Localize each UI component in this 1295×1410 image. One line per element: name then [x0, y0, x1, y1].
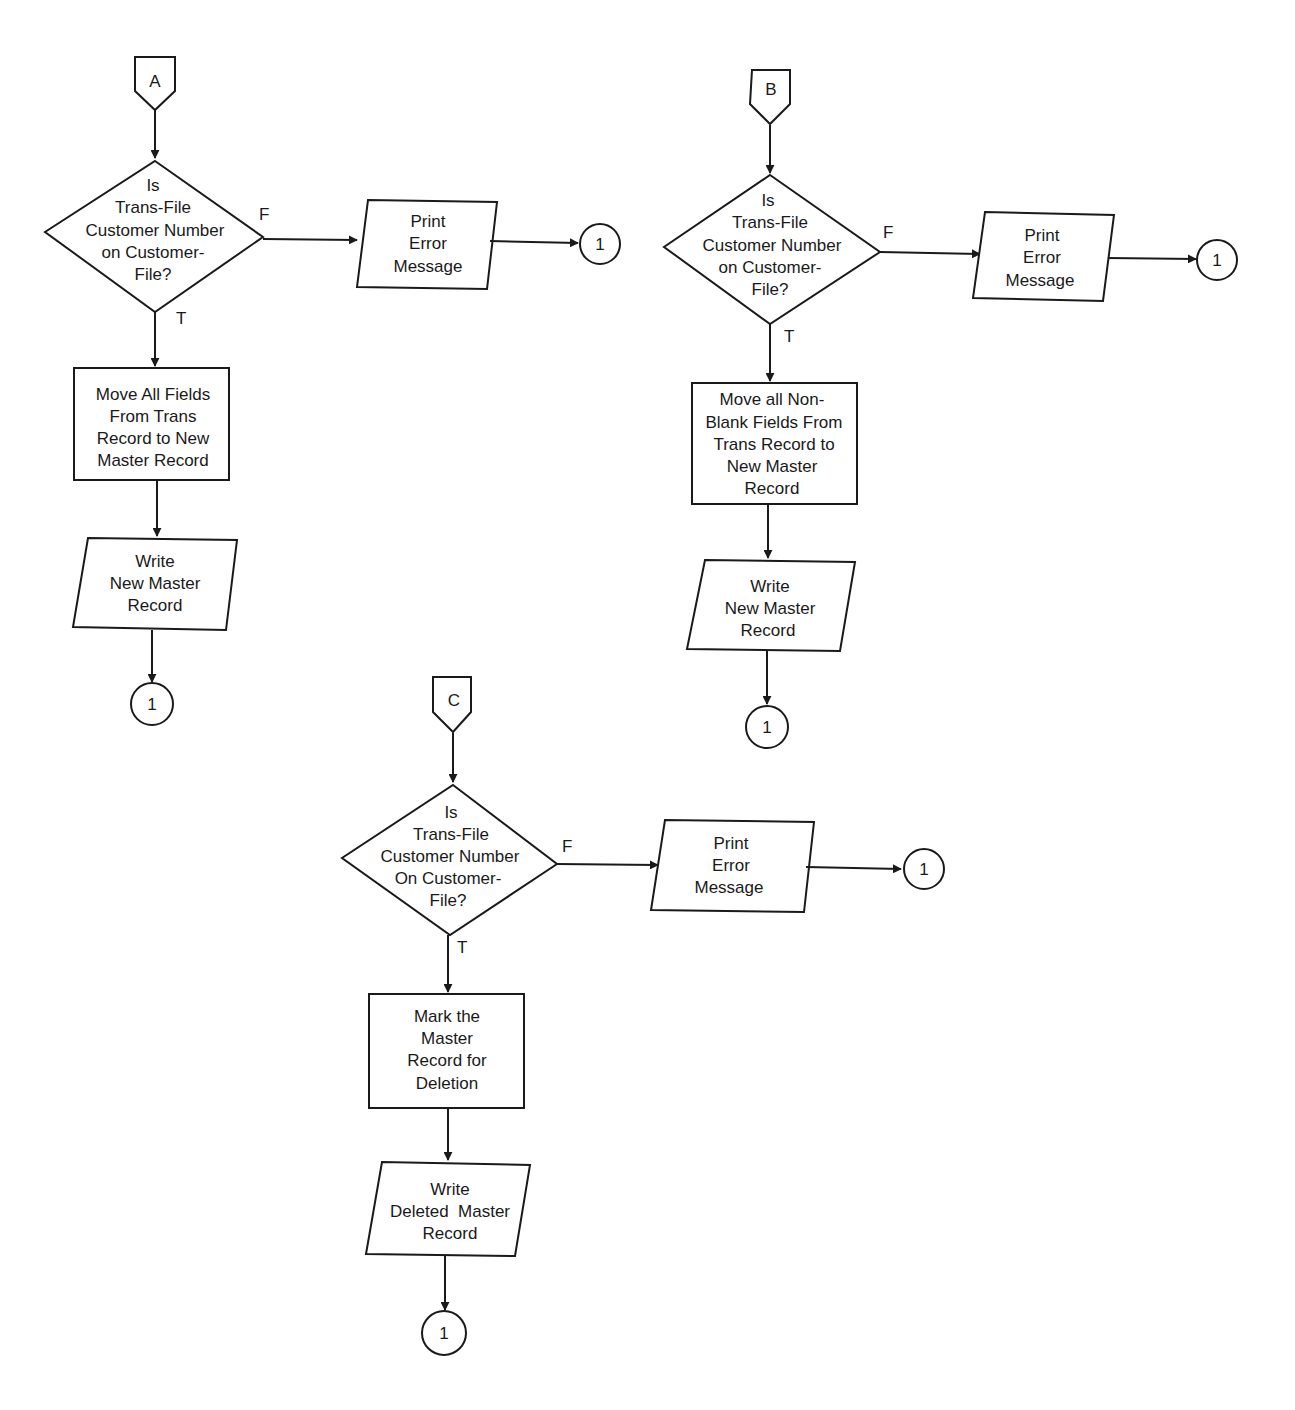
- svg-text:Error: Error: [409, 234, 447, 253]
- true-label-a: T: [176, 309, 186, 328]
- svg-text:On Customer-: On Customer-: [395, 869, 502, 888]
- exit-connector-a: 1: [131, 683, 173, 725]
- flowchart-canvas: A Is Trans-File Customer Number on Custo…: [0, 0, 1295, 1410]
- svg-text:Is: Is: [761, 191, 774, 210]
- svg-text:Is: Is: [444, 803, 457, 822]
- svg-text:New Master: New Master: [725, 599, 816, 618]
- svg-text:File?: File?: [752, 280, 789, 299]
- false-label-b: F: [883, 223, 893, 242]
- svg-text:Blank Fields From: Blank Fields From: [706, 413, 843, 432]
- svg-text:New Master: New Master: [110, 574, 201, 593]
- svg-text:Customer Number: Customer Number: [703, 236, 842, 255]
- edge-a-error-to-connector: [490, 241, 578, 243]
- svg-text:Record: Record: [741, 621, 796, 640]
- decision-c: Is Trans-File Customer Number On Custome…: [342, 785, 557, 935]
- svg-text:1: 1: [919, 860, 928, 879]
- svg-text:Customer Number: Customer Number: [86, 221, 225, 240]
- svg-text:Write: Write: [430, 1180, 469, 1199]
- svg-text:Print: Print: [411, 212, 446, 231]
- svg-text:Record: Record: [128, 596, 183, 615]
- svg-text:Print: Print: [714, 834, 749, 853]
- edge-c-error-to-connector: [806, 867, 901, 869]
- svg-text:1: 1: [147, 695, 156, 714]
- false-label-a: F: [259, 205, 269, 224]
- svg-text:1: 1: [762, 718, 771, 737]
- svg-text:Customer Number: Customer Number: [381, 847, 520, 866]
- process-mark-deletion-c: Mark the Master Record for Deletion: [369, 994, 524, 1108]
- write-output-c: Write Deleted Master Record: [366, 1162, 530, 1256]
- svg-text:From Trans: From Trans: [110, 407, 197, 426]
- svg-text:on Customer-: on Customer-: [102, 243, 205, 262]
- svg-text:Is: Is: [146, 176, 159, 195]
- svg-text:Move all Non-: Move all Non-: [720, 390, 825, 409]
- svg-text:1: 1: [439, 1324, 448, 1343]
- false-label-c: F: [562, 837, 572, 856]
- svg-text:Move All Fields: Move All Fields: [96, 385, 210, 404]
- svg-text:File?: File?: [430, 891, 467, 910]
- decision-b: Is Trans-File Customer Number on Custome…: [664, 175, 880, 324]
- svg-text:Mark the: Mark the: [414, 1007, 480, 1026]
- svg-text:C: C: [448, 691, 460, 710]
- svg-text:1: 1: [595, 235, 604, 254]
- entry-connector-a: A: [135, 57, 175, 110]
- entry-connector-b: B: [750, 70, 790, 124]
- svg-text:New Master: New Master: [727, 457, 818, 476]
- svg-text:Message: Message: [1006, 271, 1075, 290]
- error-connector-a: 1: [580, 224, 620, 264]
- flowchart-c: C Is Trans-File Customer Number On Custo…: [342, 677, 944, 1355]
- entry-connector-c: C: [433, 677, 471, 732]
- edge-c-false: [557, 864, 658, 865]
- svg-text:Error: Error: [712, 856, 750, 875]
- svg-text:Trans Record to: Trans Record to: [713, 435, 834, 454]
- svg-text:Master Record: Master Record: [97, 451, 208, 470]
- svg-text:Message: Message: [695, 878, 764, 897]
- write-output-b: Write New Master Record: [687, 560, 855, 651]
- svg-text:Deletion: Deletion: [416, 1074, 478, 1093]
- exit-connector-c: 1: [422, 1311, 466, 1355]
- svg-text:Master: Master: [421, 1029, 473, 1048]
- svg-text:Write: Write: [135, 552, 174, 571]
- edge-a-false: [263, 239, 357, 240]
- svg-text:Deleted Master: Deleted Master: [390, 1202, 510, 1221]
- svg-text:Trans-File: Trans-File: [413, 825, 489, 844]
- svg-text:1: 1: [1212, 251, 1221, 270]
- error-connector-c: 1: [904, 849, 944, 889]
- edge-b-false: [880, 252, 980, 254]
- print-error-output-c: Print Error Message: [651, 820, 814, 912]
- flowchart-a: A Is Trans-File Customer Number on Custo…: [45, 57, 620, 725]
- print-error-output-b: Print Error Message: [973, 212, 1114, 301]
- process-move-fields-a: Move All Fields From Trans Record to New…: [74, 368, 229, 480]
- true-label-c: T: [457, 938, 467, 957]
- svg-text:Record to New: Record to New: [97, 429, 210, 448]
- svg-text:Write: Write: [750, 577, 789, 596]
- svg-text:Message: Message: [394, 257, 463, 276]
- print-error-output-a: Print Error Message: [357, 200, 497, 289]
- svg-text:Record for: Record for: [407, 1051, 487, 1070]
- svg-text:Record: Record: [423, 1224, 478, 1243]
- svg-text:A: A: [149, 72, 161, 91]
- svg-text:Error: Error: [1023, 248, 1061, 267]
- svg-text:File?: File?: [135, 265, 172, 284]
- svg-text:Print: Print: [1025, 226, 1060, 245]
- svg-text:B: B: [765, 80, 776, 99]
- flowchart-b: B Is Trans-File Customer Number on Custo…: [664, 70, 1237, 748]
- svg-text:Trans-File: Trans-File: [732, 213, 808, 232]
- decision-a: Is Trans-File Customer Number on Custome…: [45, 161, 263, 312]
- exit-connector-b: 1: [746, 706, 788, 748]
- edge-b-error-to-connector: [1108, 258, 1196, 259]
- true-label-b: T: [784, 327, 794, 346]
- svg-text:on Customer-: on Customer-: [719, 258, 822, 277]
- write-output-a: Write New Master Record: [73, 538, 237, 630]
- svg-text:Record: Record: [745, 479, 800, 498]
- svg-text:Trans-File: Trans-File: [115, 198, 191, 217]
- error-connector-b: 1: [1197, 240, 1237, 280]
- process-move-nonblank-fields-b: Move all Non- Blank Fields From Trans Re…: [692, 383, 857, 504]
